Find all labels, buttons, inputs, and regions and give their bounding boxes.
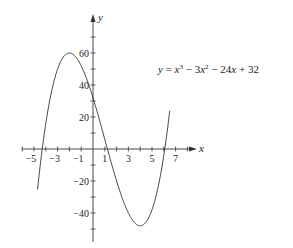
x-tick-label: −1 [73, 153, 84, 164]
chart-figure: −5−3−11357−40−20204060 x y y = x3 − 3x2 … [0, 0, 293, 248]
x-tick-label: −3 [49, 153, 60, 164]
x-tick-label: 5 [150, 153, 155, 164]
x-axis-arrow-icon [189, 147, 197, 152]
x-tick-label: 7 [173, 153, 178, 164]
y-tick-label: 20 [79, 112, 89, 123]
y-tick-label: 60 [79, 48, 89, 59]
x-tick-label: −5 [26, 153, 37, 164]
y-axis-arrow-icon [91, 14, 96, 22]
y-tick-label: −40 [73, 208, 89, 219]
curve [38, 53, 170, 226]
cubic-function-plot: −5−3−11357−40−20204060 x y y = x3 − 3x2 … [0, 0, 293, 248]
tick-labels: −5−3−11357−40−20204060 [26, 48, 178, 219]
y-axis-label: y [97, 11, 103, 23]
x-tick-label: 3 [126, 153, 131, 164]
x-tick-label: 1 [102, 153, 107, 164]
axes [22, 14, 197, 242]
equation-label: y = x3 − 3x2 − 24x + 32 [157, 63, 259, 75]
x-axis-label: x [198, 142, 204, 154]
y-tick-label: −20 [73, 176, 89, 187]
